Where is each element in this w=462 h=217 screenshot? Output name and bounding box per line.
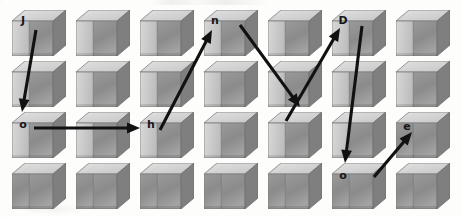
captcha-letter-n-r0-c3: n xyxy=(208,15,222,26)
captcha-letter-o-r2-c0: o xyxy=(16,119,30,130)
captcha-letter-j-r0-c0: J xyxy=(16,15,30,26)
captcha-letter-o-r3-c5: o xyxy=(336,170,350,181)
captcha-letter-e-r2-c6: e xyxy=(400,121,414,132)
captcha-letter-d-r0-c5: D xyxy=(336,15,350,26)
captcha-letter-h-r2-c2: h xyxy=(144,119,158,130)
captcha-image: JnDoheo xyxy=(0,0,462,217)
letter-overlay: JnDoheo xyxy=(0,0,462,217)
